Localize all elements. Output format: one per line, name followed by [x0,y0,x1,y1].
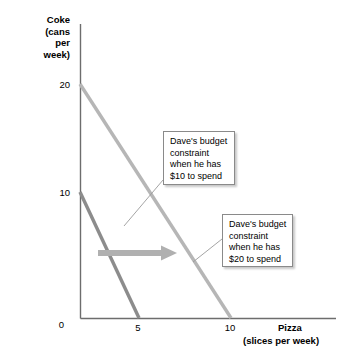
callout-budget-20: Dave's budget constraint when he has $20… [222,214,293,267]
budget-constraint-chart: Coke (cans per week) Pizza (slices per w… [0,0,350,363]
x-axis-sublabel: (slices per week) [243,335,319,347]
budget-line-20 [80,84,231,318]
callout-budget-10: Dave's budget constraint when he has $10… [163,131,235,185]
y-tick-10: 10 [36,187,70,198]
x-tick-5: 5 [126,322,150,333]
y-tick-20: 20 [36,79,70,90]
y-tick-0: 0 [36,319,64,330]
x-tick-10: 10 [216,322,244,333]
x-axis-label: Pizza [278,322,302,334]
y-axis-label: Coke (cans per week) [8,14,70,60]
leader-line-20 [193,239,222,262]
